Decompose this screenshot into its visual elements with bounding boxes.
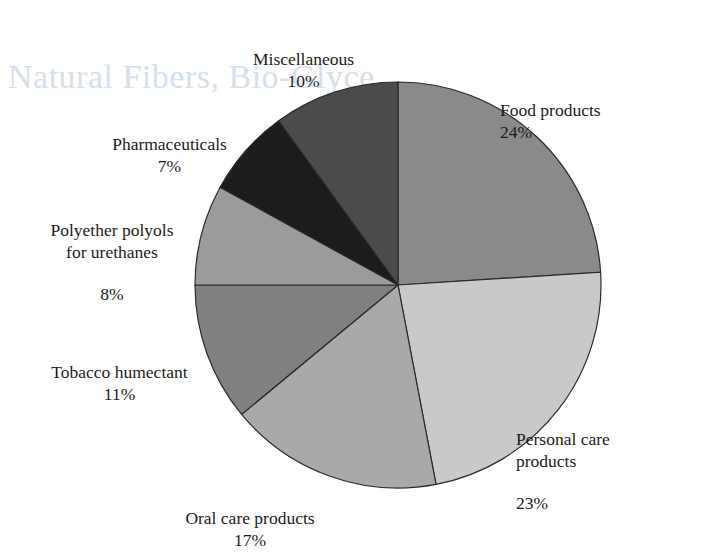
pie-label-polyether-polyols: Polyether polyols for urethanes 8% [12, 199, 212, 327]
pie-label-personal-care-products-percent: 23% [516, 493, 696, 514]
pie-label-miscellaneous-percent: 10% [196, 71, 411, 92]
pie-label-oral-care-products-percent: 17% [140, 530, 360, 551]
pie-label-tobacco-humectant-title: Tobacco humectant [51, 362, 187, 382]
pie-label-personal-care-products: Personal care products 23% [516, 408, 696, 536]
pie-label-polyether-polyols-title: Polyether polyols [51, 220, 174, 240]
pie-label-personal-care-products-title2: products [516, 451, 696, 472]
pie-label-polyether-polyols-percent: 8% [12, 284, 212, 305]
pie-label-oral-care-products: Oral care products 17% [140, 487, 360, 553]
pie-label-food-products: Food products 24% [500, 79, 690, 164]
pie-label-tobacco-humectant-percent: 11% [12, 384, 227, 405]
pie-label-miscellaneous-title: Miscellaneous [253, 49, 354, 69]
pie-label-pharmaceuticals: Pharmaceuticals 7% [62, 113, 277, 198]
pie-chart-figure: Natural Fibers, Bio-Glyce Food products … [0, 0, 710, 553]
pie-label-oral-care-products-title: Oral care products [185, 508, 314, 528]
pie-label-pharmaceuticals-percent: 7% [62, 156, 277, 177]
pie-label-personal-care-products-title: Personal care [516, 429, 610, 449]
pie-label-tobacco-humectant: Tobacco humectant 11% [12, 341, 227, 426]
pie-label-food-products-percent: 24% [500, 122, 690, 143]
pie-label-miscellaneous: Miscellaneous 10% [196, 28, 411, 113]
pie-label-polyether-polyols-title2: for urethanes [12, 242, 212, 263]
pie-label-pharmaceuticals-title: Pharmaceuticals [112, 134, 227, 154]
pie-label-food-products-title: Food products [500, 100, 601, 120]
